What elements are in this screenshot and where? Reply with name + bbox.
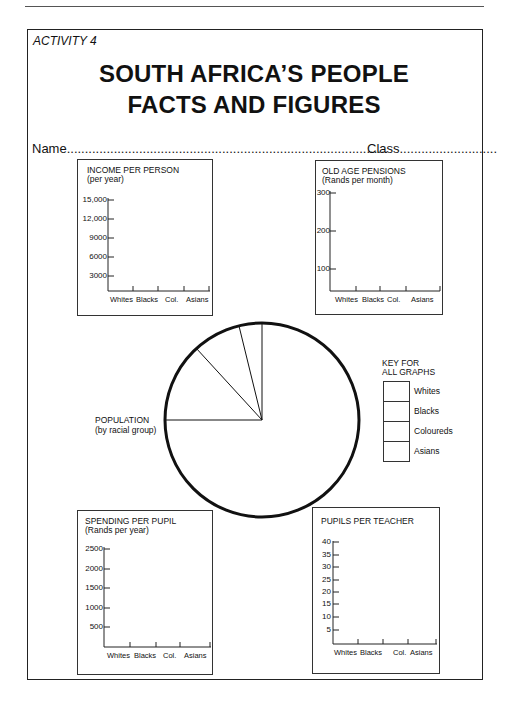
- pensions-axes: [316, 161, 444, 316]
- pensions-xlabel: Asians: [411, 295, 434, 304]
- income-xlabel: Col.: [165, 295, 178, 304]
- page-title-line2: FACTS AND FIGURES: [0, 91, 508, 119]
- key-title: ALL GRAPHS: [382, 368, 435, 377]
- spending-xlabel: Blacks: [134, 651, 156, 660]
- name-field[interactable]: Name....................................…: [32, 141, 388, 156]
- pensions-ytick: 200: [296, 226, 330, 235]
- pupils-ytick: 10: [297, 612, 331, 621]
- key-label: Coloureds: [414, 426, 453, 436]
- pensions-xlabel: Whites: [335, 295, 358, 304]
- pupils-chart-box: PUPILS PER TEACHER 40 35 30 25 20 15 10 …: [312, 507, 440, 674]
- spending-ytick: 500: [69, 622, 103, 631]
- pensions-ytick: 300: [296, 188, 330, 197]
- spending-xlabel: Asians: [184, 651, 207, 660]
- pupils-ytick: 35: [297, 550, 331, 559]
- key-swatch-coloureds: [383, 421, 410, 442]
- income-ytick: 3000: [73, 271, 107, 280]
- pensions-ytick: 100: [296, 264, 330, 273]
- income-ytick: 6000: [73, 252, 107, 261]
- pensions-xlabel: Blacks: [362, 295, 384, 304]
- spending-ytick: 2000: [69, 564, 103, 573]
- spending-xlabel: Col.: [163, 651, 176, 660]
- population-pie: [160, 310, 370, 525]
- key-label: Blacks: [414, 406, 439, 416]
- spending-chart-box: SPENDING PER PUPIL (Rands per year) 2500…: [77, 510, 213, 675]
- pupils-xlabel: Whites: [334, 648, 357, 657]
- income-chart-box: INCOME PER PERSON (per year) 15,000 12,0…: [77, 159, 213, 316]
- pupils-ytick: 15: [297, 599, 331, 608]
- income-ytick: 15,000: [73, 195, 107, 204]
- key-swatch-asians: [383, 441, 410, 462]
- pupils-ytick: 25: [297, 575, 331, 584]
- pupils-ytick: 20: [297, 587, 331, 596]
- income-xlabel: Whites: [110, 295, 133, 304]
- key-label: Asians: [414, 446, 440, 456]
- pupils-xlabel: Asians: [410, 648, 433, 657]
- spending-ytick: 1000: [69, 603, 103, 612]
- pupils-ytick: 5: [297, 625, 331, 634]
- key-swatch-blacks: [383, 401, 410, 422]
- page-title-line1: SOUTH AFRICA’S PEOPLE: [0, 60, 508, 88]
- key-label: Whites: [414, 386, 440, 396]
- pie-label-title: POPULATION: [95, 415, 149, 425]
- key-swatch-whites: [383, 381, 410, 402]
- income-xlabel: Blacks: [136, 295, 158, 304]
- pupils-xlabel: Blacks: [360, 648, 382, 657]
- activity-label: ACTIVITY 4: [33, 34, 97, 48]
- income-ytick: 9000: [73, 233, 107, 242]
- pupils-xlabel: Col.: [393, 648, 406, 657]
- pie-label-subtitle: (by racial group): [95, 425, 156, 435]
- class-field[interactable]: Class...........................: [367, 141, 497, 156]
- pensions-chart-box: OLD AGE PENSIONS (Rands per month) 300 2…: [315, 160, 443, 315]
- top-rule: [25, 6, 484, 7]
- income-xlabel: Asians: [186, 295, 209, 304]
- pupils-ytick: 30: [297, 562, 331, 571]
- spending-ytick: 1500: [69, 583, 103, 592]
- spending-xlabel: Whites: [107, 651, 130, 660]
- pupils-ytick: 40: [297, 537, 331, 546]
- income-ytick: 12,000: [73, 214, 107, 223]
- pensions-xlabel: Col.: [387, 295, 400, 304]
- spending-ytick: 2500: [69, 544, 103, 553]
